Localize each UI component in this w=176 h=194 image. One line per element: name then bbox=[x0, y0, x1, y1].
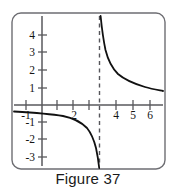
y-tick-label-neg3: -3 bbox=[25, 151, 35, 163]
x-tick-label-5: 5 bbox=[130, 109, 136, 121]
y-tick-label-2: 2 bbox=[29, 64, 35, 76]
y-tick-label-3: 3 bbox=[29, 46, 35, 58]
graph-canvas: 4 3 2 1 -1 -2 -3 -1 2 4 5 6 bbox=[11, 12, 166, 170]
x-tick-label-4: 4 bbox=[113, 109, 119, 121]
y-tick-label-1: 1 bbox=[29, 82, 35, 94]
y-tick-label-4: 4 bbox=[29, 29, 35, 41]
x-tick-label-6: 6 bbox=[147, 109, 153, 121]
x-tick-label-neg1: -1 bbox=[21, 109, 31, 121]
figure-caption: Figure 37 bbox=[0, 170, 176, 187]
figure-container: 4 3 2 1 -1 -2 -3 -1 2 4 5 6 Figure 37 bbox=[0, 0, 176, 194]
plot-frame: 4 3 2 1 -1 -2 -3 -1 2 4 5 6 bbox=[11, 12, 166, 170]
y-tick-label-neg2: -2 bbox=[25, 133, 35, 145]
